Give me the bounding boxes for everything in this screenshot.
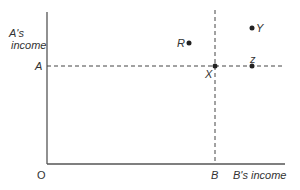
point-r <box>187 41 192 46</box>
point-y <box>250 26 255 31</box>
x-axis-label: B's income <box>233 169 286 181</box>
point-x-label: X <box>205 68 212 80</box>
point-r-label: R <box>177 37 185 49</box>
y-axis-label-line1: A's <box>9 27 24 39</box>
diagram-canvas <box>0 0 300 190</box>
x-tick-label-b: B <box>211 169 218 181</box>
y-tick-label-a: A <box>35 60 42 72</box>
point-x <box>213 64 218 69</box>
origin-label: O <box>37 169 46 181</box>
point-y-label: Y <box>256 22 263 34</box>
point-z-label: z <box>250 53 256 65</box>
y-axis-label-line2: income <box>11 39 46 51</box>
